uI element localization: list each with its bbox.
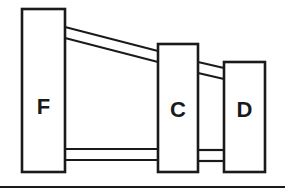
node-f-box: [22, 9, 65, 172]
band-f-c-upper-top: [65, 27, 158, 51]
node-f-label: F: [22, 94, 65, 120]
band-c-d-upper-bottom: [198, 73, 224, 79]
band-f-c-upper-bottom: [65, 38, 158, 62]
band-c-d-upper-top: [198, 62, 224, 68]
node-d-label: D: [224, 97, 265, 123]
node-c-label: C: [158, 97, 198, 123]
